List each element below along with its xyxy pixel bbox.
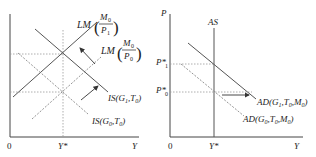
right-ystar-label: Y*: [209, 141, 219, 151]
svg-text:IS(G0,T0): IS(G0,T0): [91, 116, 125, 127]
svg-text:): ): [113, 18, 119, 37]
svg-text:M: M: [99, 12, 108, 22]
lm-p0-label: LM ( M 0 P 0 ): [100, 38, 142, 63]
ad-g0-label: AD(G0,T0,M0): [242, 114, 294, 125]
svg-text:LM: LM: [100, 45, 116, 56]
right-origin-label: 0: [168, 141, 173, 151]
as-label: AS: [207, 17, 218, 27]
left-x-axis-label: Y: [132, 141, 138, 151]
svg-text:1: 1: [165, 63, 168, 69]
svg-text:0: 0: [131, 43, 134, 49]
ad-g0-curve: [181, 64, 244, 116]
lm-p1-label: LM ( M 0 P 1 ): [76, 12, 119, 37]
is-g1-label: IS(G1,T0): [107, 93, 141, 104]
is-g1-curve: [35, 29, 108, 92]
is-lm-panel: LM ( M 0 P 1 ) LM ( M 0 P 0 ) IS(G1,T0): [7, 12, 142, 151]
svg-text:1: 1: [107, 30, 110, 36]
lm-p0-curve: [32, 57, 101, 119]
svg-text:AD(G0,T0,M0): AD(G0,T0,M0): [242, 114, 294, 125]
right-y-axis-label: P: [160, 8, 167, 18]
svg-text:P: P: [123, 51, 130, 61]
left-ystar-label: Y*: [58, 141, 68, 151]
svg-text:0: 0: [165, 91, 168, 97]
is-lm-ad-as-diagram: LM ( M 0 P 1 ) LM ( M 0 P 0 ) IS(G1,T0): [0, 0, 316, 157]
left-origin-label: 0: [7, 141, 12, 151]
ad-g1-label: AD(G1,T0,M0): [256, 97, 308, 108]
right-x-axis-label: Y: [294, 141, 300, 151]
p1-star-label: P* 1: [155, 57, 168, 69]
svg-text:): ): [136, 44, 142, 63]
svg-text:LM: LM: [76, 19, 92, 30]
svg-text:P: P: [100, 25, 107, 35]
lm-shift-arrow: [80, 48, 95, 64]
svg-text:M: M: [122, 38, 131, 48]
ad-g1-curve: [188, 43, 256, 99]
svg-text:IS(G1,T0): IS(G1,T0): [107, 93, 141, 104]
p0-star-label: P* 0: [155, 85, 168, 97]
ad-as-panel: AS P* 1 P* 0 AD(G1,T0,M0) AD(G0,T0,M0): [155, 8, 308, 151]
svg-text:AD(G1,T0,M0): AD(G1,T0,M0): [256, 97, 308, 108]
svg-text:0: 0: [108, 17, 111, 23]
svg-text:0: 0: [130, 56, 133, 62]
is-g0-label: IS(G0,T0): [91, 116, 125, 127]
is-shift-arrow: [81, 86, 98, 100]
